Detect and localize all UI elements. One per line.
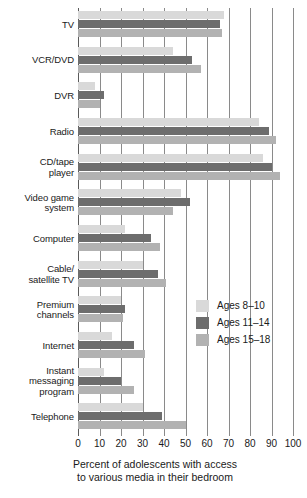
bar bbox=[78, 403, 143, 411]
category-label: Telephone bbox=[0, 412, 74, 423]
bar bbox=[78, 412, 162, 420]
bar-group bbox=[78, 402, 293, 438]
bar bbox=[78, 20, 220, 28]
bar bbox=[78, 332, 112, 340]
bar bbox=[78, 154, 263, 162]
category-label: CD/tapeplayer bbox=[0, 157, 74, 178]
bar bbox=[78, 243, 160, 251]
category-label: Computer bbox=[0, 234, 74, 245]
bar bbox=[78, 386, 134, 394]
legend-label: Ages 15–18 bbox=[217, 332, 270, 347]
bar bbox=[78, 368, 104, 376]
category-label-line: program bbox=[0, 387, 74, 398]
bar bbox=[78, 163, 272, 171]
bar-group bbox=[78, 10, 293, 46]
bar-group bbox=[78, 46, 293, 82]
bar bbox=[78, 29, 222, 37]
bar bbox=[78, 296, 121, 304]
category-label: Video gamesystem bbox=[0, 193, 74, 214]
bar bbox=[78, 314, 123, 322]
category-label: VCR/DVD bbox=[0, 55, 74, 66]
bar bbox=[78, 234, 151, 242]
chart-legend: Ages 8–10Ages 11–14Ages 15–18 bbox=[196, 298, 301, 349]
plot-area bbox=[78, 8, 293, 436]
category-label: DVR bbox=[0, 91, 74, 102]
category-axis-labels: TVVCR/DVDDVRRadioCD/tapeplayerVideo game… bbox=[0, 8, 74, 436]
x-tick-label-0: 0 bbox=[75, 438, 81, 450]
bar bbox=[78, 47, 173, 55]
category-label-line: CD/tape bbox=[0, 157, 74, 168]
category-label: Radio bbox=[0, 127, 74, 138]
category-label-line: Telephone bbox=[0, 412, 74, 423]
legend-item: Ages 8–10 bbox=[196, 298, 301, 315]
x-axis-title-line1: Percent of adolescents with access bbox=[20, 458, 290, 471]
category-label-line: Radio bbox=[0, 127, 74, 138]
x-tick-label-30: 30 bbox=[137, 438, 148, 450]
legend-item: Ages 11–14 bbox=[196, 315, 301, 332]
category-label-line: DVR bbox=[0, 91, 74, 102]
bar bbox=[78, 341, 134, 349]
bar bbox=[78, 270, 158, 278]
x-tick-label-50: 50 bbox=[180, 438, 191, 450]
bar bbox=[78, 207, 173, 215]
x-tick-label-20: 20 bbox=[115, 438, 126, 450]
category-label-line: system bbox=[0, 203, 74, 214]
category-label: Premiumchannels bbox=[0, 300, 74, 321]
category-label-line: TV bbox=[0, 20, 74, 31]
bar bbox=[78, 350, 145, 358]
bar bbox=[78, 118, 259, 126]
bar bbox=[78, 11, 224, 19]
bar-group bbox=[78, 260, 293, 296]
bar bbox=[78, 421, 186, 429]
gridline-100 bbox=[293, 8, 294, 436]
bar bbox=[78, 198, 190, 206]
category-label: Instantmessagingprogram bbox=[0, 366, 74, 398]
bar-chart: TVVCR/DVDDVRRadioCD/tapeplayerVideo game… bbox=[0, 0, 307, 498]
bar-groups bbox=[78, 8, 293, 436]
legend-swatch bbox=[196, 317, 209, 329]
bar bbox=[78, 172, 280, 180]
x-axis-title-line2: to various media in their bedroom bbox=[20, 471, 290, 484]
legend-swatch bbox=[196, 334, 209, 346]
category-label-line: satellite TV bbox=[0, 275, 74, 286]
category-label: TV bbox=[0, 20, 74, 31]
bar-group bbox=[78, 81, 293, 117]
category-label-line: Computer bbox=[0, 234, 74, 245]
x-axis-title: Percent of adolescents with access to va… bbox=[20, 458, 290, 484]
bar bbox=[78, 225, 125, 233]
x-tick-label-90: 90 bbox=[266, 438, 277, 450]
bar bbox=[78, 377, 121, 385]
bar bbox=[78, 91, 104, 99]
bar bbox=[78, 56, 192, 64]
x-tick-label-80: 80 bbox=[244, 438, 255, 450]
bar bbox=[78, 279, 166, 287]
bar-group bbox=[78, 367, 293, 403]
x-tick-label-70: 70 bbox=[223, 438, 234, 450]
bar bbox=[78, 305, 125, 313]
bar bbox=[78, 82, 95, 90]
category-label: Internet bbox=[0, 341, 74, 352]
x-tick-label-40: 40 bbox=[158, 438, 169, 450]
bar-group bbox=[78, 153, 293, 189]
bar-group bbox=[78, 224, 293, 260]
bar bbox=[78, 65, 201, 73]
category-label: Cable/satellite TV bbox=[0, 264, 74, 285]
bar-group bbox=[78, 188, 293, 224]
legend-label: Ages 8–10 bbox=[217, 298, 265, 313]
x-tick-label-10: 10 bbox=[94, 438, 105, 450]
bar bbox=[78, 100, 100, 108]
bar bbox=[78, 136, 276, 144]
x-axis-tick-labels: 0102030405060708090100 bbox=[78, 436, 293, 452]
category-label-line: player bbox=[0, 168, 74, 179]
category-label-line: channels bbox=[0, 310, 74, 321]
category-label-line: VCR/DVD bbox=[0, 55, 74, 66]
bar-group bbox=[78, 117, 293, 153]
x-tick-label-60: 60 bbox=[201, 438, 212, 450]
x-tick-label-100: 100 bbox=[285, 438, 302, 450]
legend-label: Ages 11–14 bbox=[217, 315, 270, 330]
legend-item: Ages 15–18 bbox=[196, 332, 301, 349]
bar bbox=[78, 127, 269, 135]
bar bbox=[78, 189, 181, 197]
category-label-line: Internet bbox=[0, 341, 74, 352]
bar bbox=[78, 261, 143, 269]
